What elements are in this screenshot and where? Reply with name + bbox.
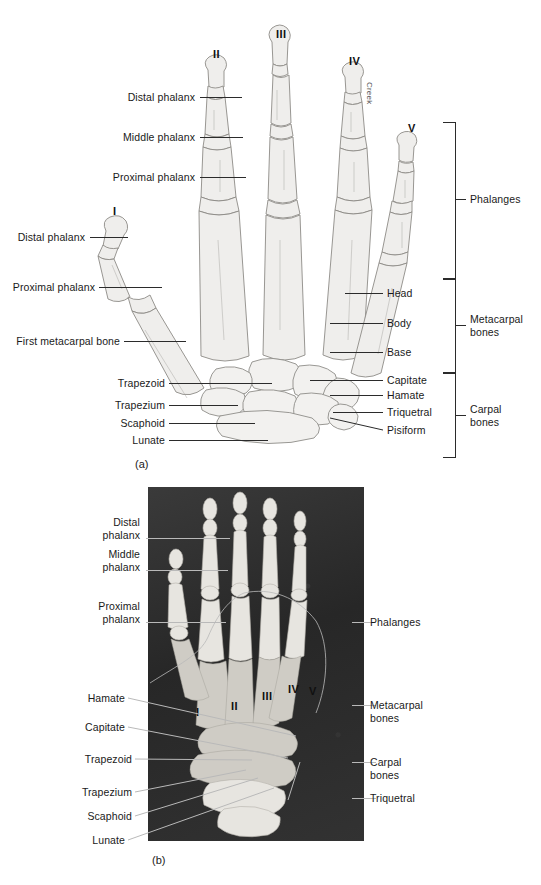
label-lunate-b: Lunate: [40, 834, 125, 847]
label-trapezium-b: Trapezium: [40, 786, 132, 799]
label-metacarpal-bones-b: Metacarpal bones: [370, 699, 450, 724]
leader-trapezium-b: [135, 770, 246, 792]
leader-trapezoid-b: [135, 759, 252, 760]
leader-hamate-b: [128, 698, 296, 736]
label-hamate-b: Hamate: [40, 692, 125, 705]
caption-panel-b: (b): [152, 854, 165, 866]
leader-capitate-b: [128, 727, 288, 758]
label-capitate-b: Capitate: [40, 721, 125, 734]
label-scaphoid-b: Scaphoid: [40, 810, 132, 823]
label-carpal-bones-b-text: Carpal bones: [370, 756, 402, 781]
label-carpal-bones-b: Carpal bones: [370, 756, 450, 781]
label-phalanges-b: Phalanges: [370, 616, 450, 629]
label-trapezoid-b: Trapezoid: [40, 753, 132, 766]
label-metacarpal-bones-b-text: Metacarpal bones: [370, 699, 423, 724]
leader-scaphoid-b: [135, 778, 258, 816]
label-triquetral-b: Triquetral: [370, 792, 450, 805]
leader-triquetral-b-stub: [288, 762, 300, 800]
hand-bones-figure: I II III IV V Creek Distal phalanx Middl…: [0, 0, 541, 885]
